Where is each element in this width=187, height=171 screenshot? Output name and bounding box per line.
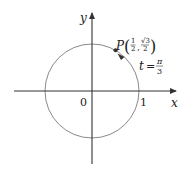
angle-var: t xyxy=(139,59,144,73)
paren-open: ( xyxy=(124,37,130,56)
paren-close: ) xyxy=(150,37,156,56)
angle-num: π xyxy=(156,57,163,66)
y-coord-den: 2 xyxy=(143,45,147,53)
origin-label: 0 xyxy=(80,96,87,109)
x-coord-num: 1 xyxy=(131,37,135,45)
angle-eq: = xyxy=(146,60,155,73)
angle-den: 3 xyxy=(157,67,162,76)
y-coord-num: √3 xyxy=(141,37,150,45)
x-tick-label-1: 1 xyxy=(140,96,147,109)
coord-comma: , xyxy=(137,42,140,52)
x-coord-den: 2 xyxy=(131,45,135,53)
x-axis-label: x xyxy=(171,96,178,110)
unit-circle-diagram: y x 0 1 P ( 1 2 , √3 2 ) t = π 3 xyxy=(0,0,187,171)
diagram-svg: y x 0 1 P ( 1 2 , √3 2 ) t = π 3 xyxy=(0,0,187,171)
y-axis-label: y xyxy=(79,11,87,25)
